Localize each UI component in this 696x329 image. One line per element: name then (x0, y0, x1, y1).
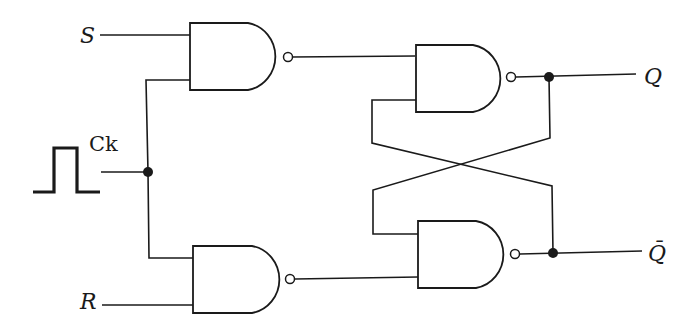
s-gate-to-q-gate-wire (292, 56, 415, 57)
q-output-label: Q (644, 64, 662, 89)
nand-gate-r (193, 246, 279, 313)
nand-gate-s-bubble (284, 53, 293, 62)
r-input-label: R (79, 289, 97, 314)
nand-gate-q (416, 45, 500, 112)
nand-gate-r-bubble (286, 275, 295, 284)
nand-gate-qbar (418, 221, 503, 288)
clock-junction-dot (143, 167, 153, 177)
r-gate-to-qbar-gate-wire (295, 277, 418, 279)
clock-label: Ck (89, 132, 118, 156)
s-input-label: S (80, 23, 95, 48)
q-bar-output-label: Q̄ (648, 240, 666, 266)
q-output-wire (516, 74, 636, 77)
sr-flip-flop-diagram: S R Ck Q Q̄ (0, 0, 696, 329)
qbar-output-wire (520, 251, 642, 254)
clock-to-s-gate-wire (146, 80, 190, 172)
nand-gate-q-bubble (507, 73, 516, 82)
nand-gate-qbar-bubble (511, 250, 520, 259)
nand-gate-s (190, 23, 275, 90)
clock-to-r-gate-wire (148, 172, 193, 258)
